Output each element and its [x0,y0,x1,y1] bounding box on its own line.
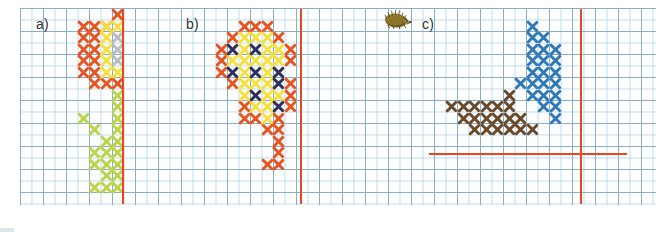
hedgehog-icon [383,9,413,29]
cross-stitch-figure: a) b) c) [0,0,668,232]
panel-a-vertical-guide-line [122,9,124,204]
panel-b-vertical-guide-line [300,9,302,204]
page-edge-sliver [0,228,14,232]
panel-label-c: c) [422,16,434,32]
panel-label-b: b) [186,16,199,32]
panel-c-vertical-axis [580,9,582,204]
graph-paper-background [20,8,656,205]
panel-label-a: a) [36,16,49,32]
panel-c-horizontal-axis [429,153,627,155]
